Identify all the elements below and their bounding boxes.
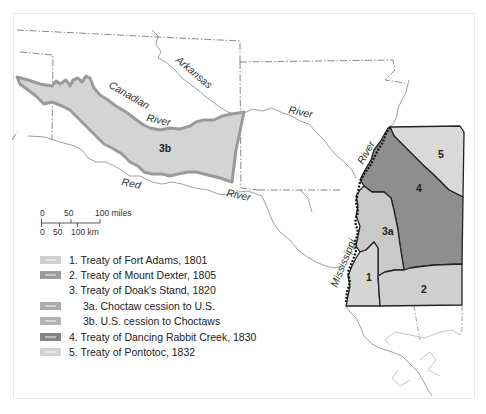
canadian-river-label-2: River (146, 111, 173, 128)
legend-swatch-none (40, 286, 61, 294)
legend-swatch-3b (40, 317, 61, 325)
legend-swatch-5 (40, 348, 61, 356)
scale-km-0: 0 (40, 227, 45, 237)
scale-km-100: 100 km (71, 227, 99, 237)
legend-item-doaks-stand: 3. Treaty of Doak's Stand, 1820 (40, 283, 256, 298)
legend-label: 3a. Choctaw cession to U.S. (69, 300, 215, 312)
legend-swatch-3a (40, 302, 61, 310)
region-label-4: 4 (416, 182, 422, 194)
legend-label: 5. Treaty of Pontotoc, 1832 (69, 346, 195, 358)
arkansas-river-label-2: River (288, 103, 315, 120)
state-line-stub-lower (414, 306, 420, 340)
scale-miles-50: 50 (64, 208, 73, 218)
delta-outline-2 (420, 352, 440, 376)
scale-bar: 0 50 100 miles 0 50 100 km (40, 208, 160, 242)
red-river-label-2: River (226, 186, 253, 203)
legend-label: 3b. U.S. cession to Choctaws (69, 315, 220, 327)
region-label-3a: 3a (382, 225, 394, 237)
region-label-2: 2 (421, 283, 427, 295)
state-line-north (17, 30, 240, 62)
scale-km-50: 50 (53, 227, 62, 237)
mississippi-river-lower (346, 306, 432, 396)
legend-item-3a: 3a. Choctaw cession to U.S. (40, 298, 256, 313)
red-river-label: Red (121, 175, 143, 191)
state-line-stub (12, 132, 17, 140)
legend-label: 3. Treaty of Doak's Stand, 1820 (69, 284, 216, 296)
legend-item-dancing-rabbit-creek: 4. Treaty of Dancing Rabbit Creek, 1830 (40, 329, 256, 344)
legend-label: 2. Treaty of Mount Dexter, 1805 (69, 269, 216, 281)
lake-pontchartrain-outline (385, 330, 460, 345)
pearl-river (460, 306, 462, 335)
scale-miles-100: 100 miles (95, 208, 131, 218)
legend-item-fort-adams: 1. Treaty of Fort Adams, 1801 (40, 252, 256, 267)
legend-swatch-2 (40, 271, 61, 279)
legend-swatch-1 (40, 256, 61, 264)
legend-item-pontotoc: 5. Treaty of Pontotoc, 1832 (40, 344, 256, 359)
scale-miles-0: 0 (40, 208, 45, 218)
region-label-5: 5 (438, 148, 444, 160)
legend: 1. Treaty of Fort Adams, 1801 2. Treaty … (40, 252, 256, 360)
legend-swatch-4 (40, 333, 61, 341)
delta-outline (392, 370, 410, 386)
legend-label: 4. Treaty of Dancing Rabbit Creek, 1830 (69, 331, 256, 343)
state-line-arkansas-north (240, 60, 405, 83)
arkansas-river-label: Arkansas (173, 53, 216, 91)
legend-item-3b: 3b. U.S. cession to Choctaws (40, 314, 256, 329)
river-tributary (300, 190, 312, 212)
region-label-3b: 3b (159, 142, 171, 154)
legend-label: 1. Treaty of Fort Adams, 1801 (69, 254, 207, 266)
state-line-arkansas-west (240, 62, 258, 190)
region-2 (378, 264, 462, 306)
legend-item-mount-dexter: 2. Treaty of Mount Dexter, 1805 (40, 267, 256, 282)
region-label-1: 1 (366, 271, 372, 283)
